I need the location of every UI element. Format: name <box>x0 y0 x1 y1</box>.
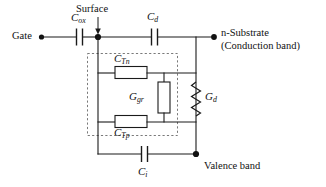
substrate-terminal-dot[interactable] <box>211 34 217 40</box>
cd-label: Cd <box>147 10 158 23</box>
gd-label: Gd <box>205 90 217 103</box>
vertical-rails-group <box>98 37 196 154</box>
gd-subscript: d <box>213 95 217 104</box>
ctn-box-symbol <box>115 67 147 79</box>
gate-label: Gate <box>12 30 32 42</box>
ggr-symbol: G <box>129 90 137 102</box>
surface-pointer-arrow <box>95 17 101 35</box>
ctp-subscript: Tp <box>121 131 129 140</box>
ci-subscript: i <box>145 170 147 179</box>
cox-subscript: ox <box>78 16 85 25</box>
ctp-branch-group <box>98 116 196 128</box>
substrate-label-line1: n-Substrate <box>221 26 300 39</box>
top-rail-group <box>39 29 217 46</box>
ggr-branch-group <box>158 73 170 122</box>
ctp-label: CTp <box>114 126 130 139</box>
circuit-diagram: Surface Gate n-Substrate (Conduction ban… <box>0 0 326 187</box>
valence-band-label: Valence band <box>204 160 260 172</box>
ci-branch-group <box>98 146 199 162</box>
gd-symbol: G <box>205 90 213 102</box>
substrate-label: n-Substrate (Conduction band) <box>221 26 300 52</box>
valence-band-node-dot[interactable] <box>193 151 199 157</box>
ctn-branch-group <box>98 67 196 79</box>
cox-label: Cox <box>71 11 86 24</box>
ggr-subscript: gr <box>137 95 144 104</box>
ctn-subscript: Tn <box>121 57 129 66</box>
ggr-label: Ggr <box>129 90 144 103</box>
substrate-label-line2: (Conduction band) <box>221 39 300 52</box>
cd-subscript: d <box>154 15 158 24</box>
ctn-label: CTn <box>114 52 130 65</box>
surface-arrow-head <box>95 29 101 35</box>
ci-label: Ci <box>138 165 148 178</box>
ggr-box-symbol <box>158 82 170 113</box>
